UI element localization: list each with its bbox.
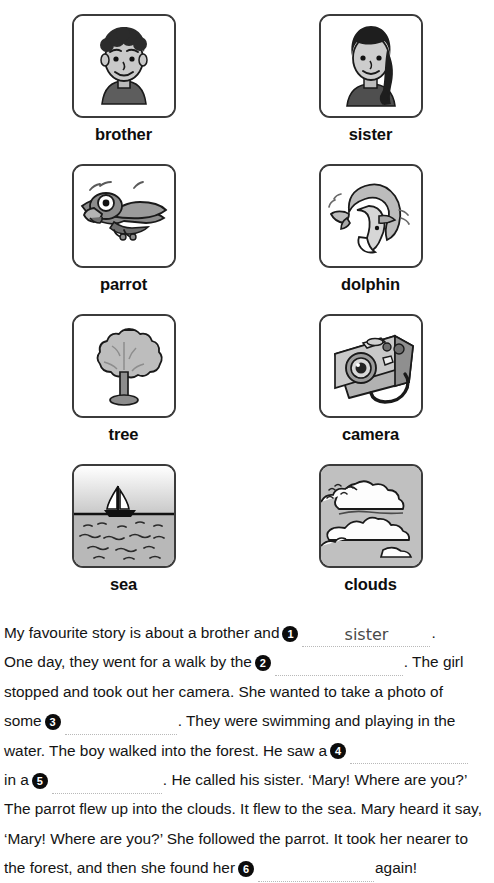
brother-portrait-icon [72,14,176,118]
story-text: in a [4,765,29,794]
gap-marker-2: 2 [255,655,271,671]
gap-marker-5: 5 [32,773,48,789]
card-row: tree camera [0,314,494,464]
card-label: clouds [344,575,397,594]
answer-blank[interactable] [52,776,162,794]
story-line: the forest, and then she found her 6 aga… [4,853,490,882]
story-text: stopped and took out her camera. She wan… [4,677,443,706]
picture-card-camera[interactable]: camera [247,314,494,464]
story-line: ‘Mary! Where are you?’ She followed the … [4,824,490,853]
story-line: The parrot flew up into the clouds. It f… [4,794,490,823]
picture-card-parrot[interactable]: parrot [0,164,247,314]
card-label: brother [95,125,152,144]
gap-marker-4: 4 [330,743,346,759]
clouds-icon [319,464,423,568]
answer-blank[interactable] [350,746,468,764]
story-text: . They were swimming and playing in the [178,706,456,735]
story-text: . [431,618,435,647]
story-text: . The girl [404,647,464,676]
story-line: My favourite story is about a brother an… [4,618,490,647]
story-line: stopped and took out her camera. She wan… [4,677,490,706]
card-row: parrot dolphin [0,164,494,314]
answer-blank[interactable] [65,717,177,735]
camera-icon [319,314,423,418]
story-text: ‘Mary! Where are you?’ She followed the … [4,824,468,853]
story-text: The parrot flew up into the clouds. It f… [4,794,482,823]
answer-blank[interactable] [275,658,403,676]
card-row: sea clouds [0,464,494,614]
card-label: sea [110,575,137,594]
story-text-block: My favourite story is about a brother an… [4,618,490,883]
picture-card-grid: brother sister parrot dolphin [0,14,494,614]
story-text: . He called his sister. ‘Mary! Where are… [163,765,468,794]
card-row: brother sister [0,14,494,164]
gap-marker-1: 1 [282,626,298,642]
picture-card-dolphin[interactable]: dolphin [247,164,494,314]
story-line: water. The boy walked into the forest. H… [4,736,490,765]
story-text: My favourite story is about a brother an… [4,618,279,647]
gap-marker-6: 6 [238,861,254,877]
sea-sailboat-icon [72,464,176,568]
story-line: in a 5. He called his sister. ‘Mary! Whe… [4,765,490,794]
picture-card-brother[interactable]: brother [0,14,247,164]
tree-icon [72,314,176,418]
story-text: water. The boy walked into the forest. H… [4,736,327,765]
picture-card-sea[interactable]: sea [0,464,247,614]
story-text: One day, they went for a walk by the [4,647,252,676]
picture-card-sister[interactable]: sister [247,14,494,164]
gap-marker-3: 3 [45,714,61,730]
sister-portrait-icon [319,14,423,118]
dolphin-icon [319,164,423,268]
card-label: camera [342,425,399,444]
story-text: again! [375,853,417,882]
story-line: some 3. They were swimming and playing i… [4,706,490,735]
card-label: parrot [100,275,147,294]
picture-card-tree[interactable]: tree [0,314,247,464]
card-label: sister [349,125,392,144]
answer-blank[interactable] [258,864,374,882]
picture-card-clouds[interactable]: clouds [247,464,494,614]
answer-blank[interactable]: sister [302,629,430,647]
card-label: tree [109,425,139,444]
parrot-icon [72,164,176,268]
story-text: the forest, and then she found her [4,853,235,882]
handwritten-answer: sister [302,626,430,643]
story-text: some [4,706,42,735]
story-line: One day, they went for a walk by the 2. … [4,647,490,676]
card-label: dolphin [341,275,400,294]
